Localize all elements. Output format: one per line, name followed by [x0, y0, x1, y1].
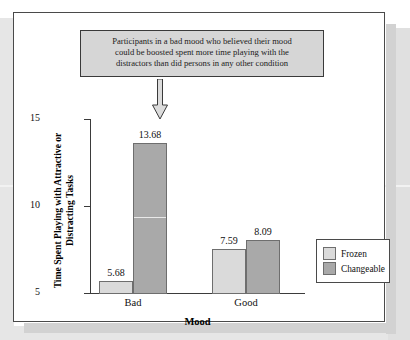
figure-panel: Participants in a bad mood who believed …	[13, 12, 385, 322]
annotation-line-1: Participants in a bad mood who believed …	[88, 36, 316, 47]
legend-swatch-changeable	[323, 262, 336, 275]
y-axis-title: Time Spent Playing with Attractive or Di…	[52, 126, 75, 296]
annotation-arrow-icon	[151, 79, 169, 121]
x-axis-title: Mood	[90, 316, 305, 327]
legend-swatch-frozen	[323, 247, 336, 260]
panel-shadow-right	[386, 24, 396, 334]
y-tick-label-5: 5	[0, 286, 40, 297]
annotation-line-2: could be boosted spent more time playing…	[88, 47, 316, 58]
legend-item-changeable: Changeable	[323, 262, 384, 275]
legend-label-frozen: Frozen	[341, 249, 367, 259]
y-tick-mark-10	[84, 206, 90, 207]
legend-item-frozen: Frozen	[323, 247, 384, 260]
chart-legend: Frozen Changeable	[316, 239, 390, 283]
y-tick-label-10: 10	[0, 199, 40, 210]
bar-good-frozen	[212, 249, 246, 294]
bar-value-good-changeable: 8.09	[238, 226, 288, 237]
legend-label-changeable: Changeable	[341, 264, 385, 274]
x-tick-label-good: Good	[221, 297, 271, 308]
y-axis-title-line-1: Time Spent Playing with Attractive or	[52, 133, 63, 289]
y-tick-mark-5	[84, 293, 90, 294]
bar-good-changeable	[246, 240, 280, 294]
y-tick-mark-15	[84, 119, 90, 120]
bar-value-bad-changeable: 13.68	[125, 129, 175, 140]
bar-bad-changeable	[133, 143, 167, 294]
annotation-callout: Participants in a bad mood who believed …	[80, 30, 324, 77]
bar-scan-seam	[134, 217, 166, 218]
y-axis-title-line-2: Distracting Tasks	[63, 126, 75, 296]
y-tick-label-15: 15	[0, 112, 40, 123]
bar-bad-frozen	[99, 281, 133, 294]
annotation-line-3: distractors than did persons in any othe…	[88, 58, 316, 69]
x-tick-label-bad: Bad	[108, 297, 158, 308]
